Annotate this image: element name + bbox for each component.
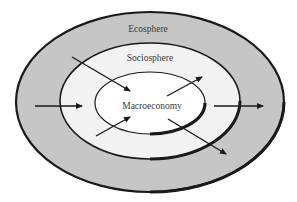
nested-spheres-diagram: Ecosphere Sociosphere Macroeconomy bbox=[0, 0, 297, 202]
ecosphere-label: Ecosphere bbox=[128, 24, 168, 34]
macroeconomy-label: Macroeconomy bbox=[122, 101, 182, 111]
sociosphere-label: Sociosphere bbox=[127, 53, 173, 63]
